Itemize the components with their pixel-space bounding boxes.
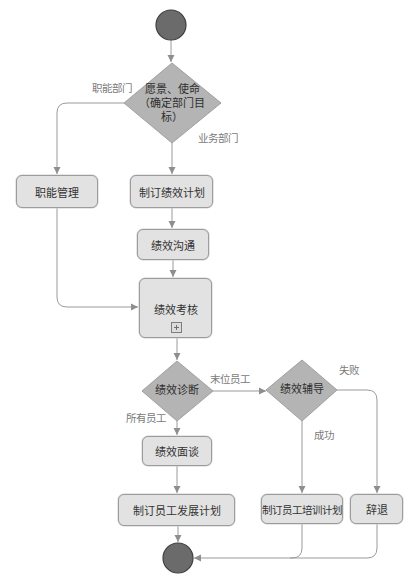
activity-make-performance-plan[interactable]: 制订绩效计划: [130, 175, 213, 208]
edge-label-fail: 失败: [339, 362, 359, 377]
edge-label-success: 成功: [314, 427, 334, 442]
edge-label-business-dept: 业务部门: [198, 130, 238, 145]
edge-label-functional-dept: 职能部门: [92, 80, 132, 95]
activity-employee-development-plan[interactable]: 制订员工发展计划: [118, 494, 235, 526]
activity-performance-communication[interactable]: 绩效沟通: [137, 229, 209, 260]
activity-performance-interview[interactable]: 绩效面谈: [142, 436, 212, 466]
activity-label: 绩效考核: [154, 301, 198, 317]
activity-functional-management[interactable]: 职能管理: [16, 175, 98, 208]
edge-label-bottom-staff: 末位员工: [210, 371, 250, 386]
activity-label: 绩效面谈: [155, 443, 199, 459]
decision-diagnosis-label: 绩效诊断: [147, 383, 207, 399]
activity-label: 制订员工培训计划: [262, 502, 342, 517]
decision-coaching-label: 绩效辅导: [272, 382, 332, 398]
activity-label: 制订绩效计划: [139, 184, 205, 200]
edge-label-all-staff: 所有员工: [126, 410, 166, 425]
decision-vision-label: 愿景、使命 （确定部门目 标）: [134, 82, 210, 126]
decision-vision-line1: 愿景、使命: [145, 83, 200, 97]
activity-employee-training-plan[interactable]: 制订员工培训计划: [261, 494, 343, 524]
activity-label: 制订员工发展计划: [133, 502, 221, 518]
activity-dismiss[interactable]: 辞退: [350, 494, 403, 524]
activity-label: 辞退: [366, 501, 388, 517]
end-node: [163, 543, 193, 573]
activity-label: 绩效沟通: [151, 237, 195, 253]
activity-label: 职能管理: [35, 184, 79, 200]
edge-vision-to-functional: [57, 103, 124, 174]
decision-vision-line3: 标）: [161, 111, 183, 125]
edge-functional-to-appraisal: [57, 208, 138, 307]
edge-dismiss-to-end: [290, 524, 377, 558]
edge-coaching-to-dismiss: [337, 390, 377, 493]
decision-vision-line2: （确定部门目: [139, 97, 205, 111]
start-node: [156, 10, 186, 40]
flowchart-canvas: 愿景、使命 （确定部门目 标） 绩效诊断 绩效辅导 职能管理 制订绩效计划 绩效…: [0, 0, 414, 581]
expand-subprocess-icon[interactable]: [171, 322, 182, 333]
edge-training-to-end: [194, 524, 302, 558]
